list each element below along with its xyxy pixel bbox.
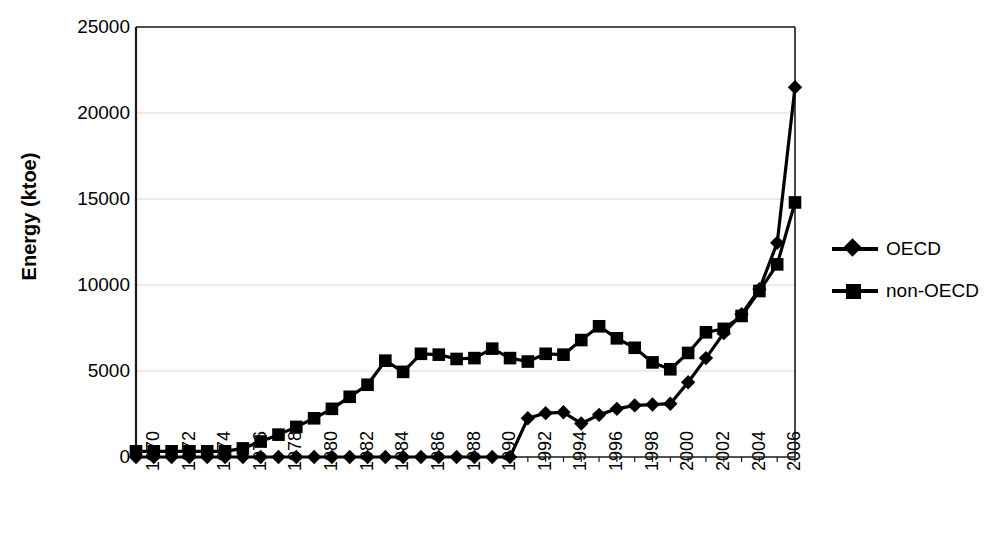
- data-point-marker: [467, 450, 481, 464]
- data-point-marker: [414, 450, 428, 464]
- series-line: [136, 87, 795, 457]
- data-point-marker: [326, 403, 339, 416]
- data-point-marker: [449, 450, 463, 464]
- data-point-marker: [735, 310, 748, 323]
- data-point-marker: [432, 450, 446, 464]
- square-marker-icon: [832, 281, 878, 301]
- legend-item-oecd[interactable]: OECD: [832, 228, 979, 270]
- data-point-marker: [539, 348, 552, 361]
- data-point-marker: [415, 348, 428, 361]
- data-point-marker: [592, 408, 606, 422]
- data-point-marker: [148, 445, 161, 458]
- data-point-marker: [645, 397, 659, 411]
- data-point-marker: [290, 421, 303, 434]
- data-point-marker: [628, 398, 642, 412]
- diamond-marker-icon: [832, 239, 878, 259]
- series-oecd: [129, 80, 802, 464]
- data-point-marker: [504, 352, 517, 365]
- data-point-marker: [646, 356, 659, 369]
- data-point-marker: [219, 445, 232, 458]
- data-point-marker: [343, 391, 356, 404]
- line-chart: Energy (ktoe) 0500010000150002000025000 …: [0, 0, 995, 542]
- data-point-marker: [664, 363, 677, 376]
- data-point-marker: [271, 450, 285, 464]
- data-point-marker: [771, 258, 784, 271]
- data-point-marker: [165, 445, 178, 458]
- data-point-marker: [254, 435, 267, 448]
- data-point-marker: [485, 450, 499, 464]
- data-point-marker: [628, 341, 641, 354]
- data-point-marker: [611, 332, 624, 345]
- data-point-marker: [325, 450, 339, 464]
- data-point-marker: [575, 334, 588, 347]
- data-point-marker: [397, 366, 410, 379]
- data-point-marker: [557, 348, 570, 361]
- data-point-marker: [522, 355, 535, 368]
- chart-legend: OECD non-OECD: [832, 228, 979, 312]
- data-point-marker: [237, 442, 250, 455]
- data-point-marker: [307, 450, 321, 464]
- data-point-marker: [396, 450, 410, 464]
- series-line: [136, 202, 795, 451]
- data-point-marker: [183, 445, 196, 458]
- data-point-marker: [450, 353, 463, 366]
- data-point-marker: [253, 450, 267, 464]
- data-point-marker: [789, 196, 802, 209]
- data-point-marker: [700, 326, 713, 339]
- data-point-marker: [753, 285, 766, 298]
- data-point-marker: [343, 450, 357, 464]
- data-point-marker: [468, 352, 481, 365]
- data-point-marker: [521, 411, 535, 425]
- data-point-marker: [201, 445, 214, 458]
- data-point-marker: [378, 450, 392, 464]
- data-point-marker: [717, 323, 730, 336]
- data-point-marker: [308, 412, 321, 425]
- data-point-marker: [682, 347, 695, 360]
- data-point-marker: [361, 378, 374, 391]
- data-point-marker: [130, 445, 143, 458]
- data-point-marker: [486, 342, 499, 355]
- data-point-marker: [272, 428, 285, 441]
- data-point-marker: [289, 450, 303, 464]
- data-point-marker: [379, 354, 392, 367]
- data-point-marker: [360, 450, 374, 464]
- legend-item-non-oecd[interactable]: non-OECD: [832, 270, 979, 312]
- data-point-marker: [788, 80, 802, 94]
- legend-label-oecd: OECD: [886, 238, 941, 260]
- data-point-marker: [432, 348, 445, 361]
- data-point-marker: [538, 406, 552, 420]
- data-point-marker: [610, 402, 624, 416]
- legend-label-non-oecd: non-OECD: [886, 280, 979, 302]
- data-point-marker: [503, 450, 517, 464]
- data-point-marker: [593, 320, 606, 333]
- series-non-oecd: [130, 196, 802, 457]
